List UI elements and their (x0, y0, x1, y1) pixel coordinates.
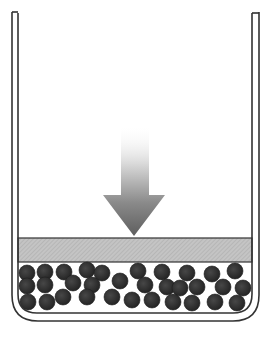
particle (204, 266, 220, 282)
particle (215, 279, 231, 295)
particle (104, 289, 120, 305)
particle (179, 265, 195, 281)
particle (19, 278, 35, 294)
particle (229, 295, 245, 311)
particle (55, 289, 71, 305)
particle (207, 294, 223, 310)
pressure-arrow-icon (103, 125, 165, 236)
particle (65, 275, 81, 291)
particle (235, 280, 251, 296)
particle (79, 289, 95, 305)
particle (37, 277, 53, 293)
particle (39, 294, 55, 310)
hatched-layer (18, 238, 252, 262)
particle (189, 279, 205, 295)
particle (184, 295, 200, 311)
particle (130, 263, 146, 279)
particle (154, 264, 170, 280)
beaker-diagram (0, 0, 273, 339)
particle (124, 292, 140, 308)
particle (137, 277, 153, 293)
particle (112, 273, 128, 289)
particle (227, 263, 243, 279)
particle (144, 292, 160, 308)
particles (19, 262, 251, 311)
particle (172, 280, 188, 296)
particle (79, 262, 95, 278)
particle (165, 294, 181, 310)
